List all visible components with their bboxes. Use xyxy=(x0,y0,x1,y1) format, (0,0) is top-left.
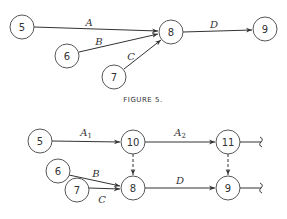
node-6: 6 xyxy=(55,44,79,68)
node-5: 5 xyxy=(10,15,34,39)
svg-text:8: 8 xyxy=(130,183,136,194)
node-8: 8 xyxy=(121,176,145,200)
edge-label-d: D xyxy=(209,19,218,30)
svg-text:5: 5 xyxy=(37,136,43,147)
edge-label-a2: A2 xyxy=(173,127,186,140)
continuation-11 xyxy=(240,137,262,147)
svg-text:8: 8 xyxy=(168,27,174,38)
node-11: 11 xyxy=(216,130,240,154)
edge-label-a: A xyxy=(84,17,92,28)
edge-label-b: B xyxy=(91,168,99,179)
node-6: 6 xyxy=(46,159,70,183)
figure-caption: FIGURE 5. xyxy=(123,96,162,104)
node-7: 7 xyxy=(102,65,126,89)
node-8: 8 xyxy=(159,20,183,44)
edge-label-c: C xyxy=(127,51,135,62)
svg-text:6: 6 xyxy=(55,166,61,177)
svg-text:9: 9 xyxy=(262,24,268,35)
figure-6: A1 A2 B C D 5 10 11 6 7 8 9 xyxy=(28,127,262,205)
edge-b xyxy=(79,34,158,52)
edge-label-d: D xyxy=(175,175,184,186)
svg-text:10: 10 xyxy=(127,137,140,148)
svg-text:11: 11 xyxy=(222,137,235,148)
node-5: 5 xyxy=(28,129,52,153)
svg-text:6: 6 xyxy=(64,51,70,62)
edge-label-a1: A1 xyxy=(79,127,92,140)
edge-c xyxy=(89,188,120,189)
figure-5: A B C D 5 6 7 8 9 FIGURE 5. xyxy=(10,15,277,104)
edge-d xyxy=(183,30,252,32)
node-10: 10 xyxy=(121,130,145,154)
node-9: 9 xyxy=(253,17,277,41)
edge-label-c: C xyxy=(98,194,106,205)
svg-text:5: 5 xyxy=(19,22,25,33)
svg-text:7: 7 xyxy=(111,72,117,83)
network-diagrams: A B C D 5 6 7 8 9 FIGURE 5. xyxy=(0,0,287,219)
svg-text:7: 7 xyxy=(74,185,80,196)
edge-a xyxy=(34,27,158,31)
continuation-9 xyxy=(240,183,262,193)
edge-a1 xyxy=(52,141,120,142)
svg-text:9: 9 xyxy=(225,183,231,194)
edge-label-b: B xyxy=(94,36,102,47)
node-7: 7 xyxy=(65,178,89,202)
node-9: 9 xyxy=(216,176,240,200)
